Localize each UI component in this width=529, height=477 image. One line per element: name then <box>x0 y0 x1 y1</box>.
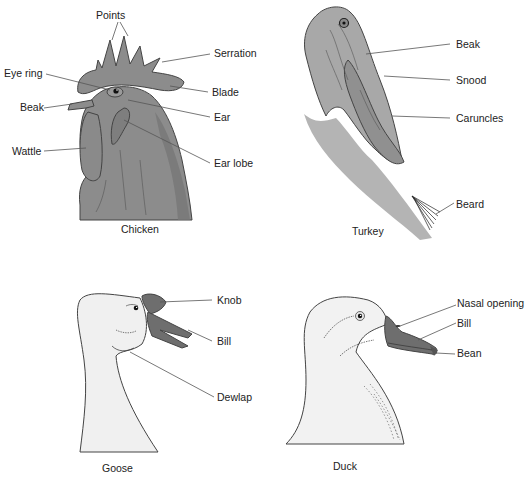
caption-goose: Goose <box>102 462 133 474</box>
chicken-comb <box>78 36 184 94</box>
label-eye-ring: Eye ring <box>4 67 43 79</box>
chicken-eye <box>113 88 118 93</box>
duck-eye <box>358 314 362 318</box>
chicken-illustration <box>68 36 192 220</box>
goose-eye-highlight <box>136 307 137 308</box>
label-beak-turkey: Beak <box>456 38 481 50</box>
leader-knob <box>160 300 212 302</box>
leader-turkey-beak <box>366 44 450 54</box>
leader-nasal-opening <box>400 305 456 326</box>
label-nasal-opening: Nasal opening <box>457 297 524 309</box>
label-beard: Beard <box>456 198 484 210</box>
chicken-panel: Points Serration Eye ring Blade Beak Ear… <box>4 9 257 235</box>
label-bean: Bean <box>457 347 482 359</box>
caption-turkey: Turkey <box>352 225 384 237</box>
leader-points-b <box>120 22 128 36</box>
leader-snood <box>384 76 450 80</box>
goose-head-neck <box>77 294 158 452</box>
label-serration: Serration <box>214 47 257 59</box>
leader-dewlap <box>130 352 214 397</box>
turkey-panel: Beak Snood Caruncles Beard Turkey <box>304 7 503 240</box>
chicken-eye-highlight <box>116 89 118 91</box>
leader-beard <box>436 203 454 214</box>
turkey-illustration <box>304 7 440 240</box>
chicken-wattle <box>80 112 102 181</box>
label-caruncles: Caruncles <box>456 112 503 124</box>
label-snood: Snood <box>456 74 487 86</box>
turkey-pupil <box>342 21 345 24</box>
label-wattle: Wattle <box>12 145 42 157</box>
caption-duck: Duck <box>333 460 358 472</box>
goose-eye <box>134 306 139 311</box>
label-beak-chicken: Beak <box>20 101 45 113</box>
label-points: Points <box>96 9 125 21</box>
label-ear: Ear <box>214 111 231 123</box>
leader-serration <box>162 54 210 62</box>
label-dewlap: Dewlap <box>217 391 252 403</box>
duck-eye-highlight <box>360 315 361 316</box>
goose-illustration <box>77 294 192 452</box>
leader-caruncles <box>392 116 450 118</box>
leader-bean <box>436 353 455 354</box>
duck-illustration <box>286 297 438 444</box>
leader-points-a <box>112 22 118 40</box>
label-bill-goose: Bill <box>217 335 231 347</box>
duck-nasal-opening <box>396 325 401 327</box>
leader-beak <box>44 104 72 108</box>
leader-goose-bill <box>188 330 212 341</box>
label-ear-lobe: Ear lobe <box>214 157 253 169</box>
poultry-head-anatomy-diagram: Points Serration Eye ring Blade Beak Ear… <box>0 0 529 477</box>
duck-panel: Nasal opening Bill Bean Duck <box>286 297 524 472</box>
label-bill-duck: Bill <box>457 317 471 329</box>
goose-knob <box>142 294 166 314</box>
goose-panel: Knob Bill Dewlap Goose <box>77 294 252 474</box>
caption-chicken: Chicken <box>121 223 159 235</box>
label-knob: Knob <box>217 294 242 306</box>
leader-duck-bill <box>418 323 456 340</box>
label-blade: Blade <box>212 86 239 98</box>
goose-bill <box>147 312 192 348</box>
